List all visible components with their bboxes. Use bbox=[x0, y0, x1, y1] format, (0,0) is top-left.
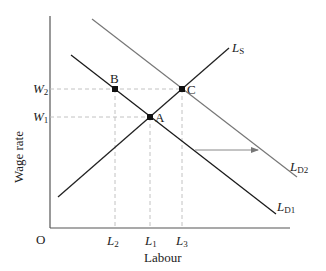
ls-label: LS bbox=[231, 40, 244, 56]
point-b-label: B bbox=[110, 71, 119, 86]
origin-label: O bbox=[36, 232, 45, 247]
point-b-marker bbox=[112, 86, 118, 92]
ld2-curve bbox=[92, 19, 297, 177]
w1-tick-label: W1 bbox=[33, 109, 48, 125]
ls-label-main: L bbox=[231, 40, 239, 55]
ld2-label: LD2 bbox=[289, 159, 308, 175]
ld2-label-main: L bbox=[289, 159, 297, 174]
x-axis-title: Labour bbox=[144, 250, 182, 265]
w1-sub: 1 bbox=[44, 115, 49, 125]
l1-main: L bbox=[144, 233, 152, 248]
l3-sub: 3 bbox=[183, 239, 188, 249]
ls-curve bbox=[58, 48, 229, 197]
ld1-curve bbox=[71, 55, 276, 214]
ld2-label-sub: D2 bbox=[297, 165, 308, 175]
ld1-label-main: L bbox=[276, 199, 284, 214]
l1-tick-label: L1 bbox=[144, 233, 157, 249]
point-c-label: C bbox=[187, 82, 196, 97]
point-a-marker bbox=[147, 114, 153, 120]
l1-sub: 1 bbox=[152, 239, 157, 249]
w2-sub: 2 bbox=[44, 87, 49, 97]
ld1-label-sub: D1 bbox=[284, 205, 295, 215]
y-axis-title: Wage rate bbox=[11, 131, 26, 183]
l2-sub: 2 bbox=[114, 239, 119, 249]
l2-tick-label: L2 bbox=[106, 233, 119, 249]
ls-label-sub: S bbox=[239, 46, 244, 56]
point-a-label: A bbox=[155, 110, 165, 125]
l3-tick-label: L3 bbox=[175, 233, 188, 249]
point-c-marker bbox=[179, 86, 185, 92]
ld1-label: LD1 bbox=[276, 199, 295, 215]
w2-tick-label: W2 bbox=[33, 81, 48, 97]
l3-main: L bbox=[175, 233, 183, 248]
l2-main: L bbox=[106, 233, 114, 248]
labour-market-diagram: A B C LS LD2 LD1 W2 W1 L2 L1 L3 O Labour… bbox=[0, 0, 326, 271]
